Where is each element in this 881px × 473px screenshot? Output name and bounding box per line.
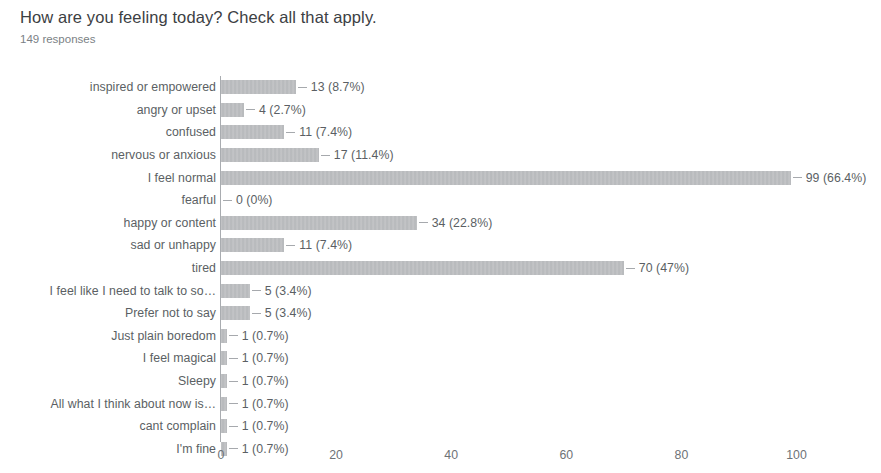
bar[interactable] bbox=[221, 171, 791, 185]
x-axis-tick-label: 80 bbox=[675, 448, 689, 462]
category-label: tired bbox=[192, 261, 216, 275]
category-label: I feel magical bbox=[143, 351, 216, 365]
value-label: 1 (0.7%) bbox=[242, 397, 289, 411]
value-label: 11 (7.4%) bbox=[299, 238, 352, 252]
bar[interactable] bbox=[221, 397, 227, 411]
bar[interactable] bbox=[221, 125, 284, 139]
bar-group[interactable]: 1 (0.7%) bbox=[221, 397, 289, 411]
bar-group[interactable]: 11 (7.4%) bbox=[221, 125, 352, 139]
bar-group[interactable]: 34 (22.8%) bbox=[221, 216, 492, 230]
bar[interactable] bbox=[221, 329, 227, 343]
bar-group[interactable]: 5 (3.4%) bbox=[221, 306, 312, 320]
chart-row: tired70 (47%) bbox=[0, 257, 881, 280]
chart-row: cant complain1 (0.7%) bbox=[0, 415, 881, 438]
bar-group[interactable]: 13 (8.7%) bbox=[221, 80, 365, 94]
chart-row: I feel normal99 (66.4%) bbox=[0, 166, 881, 189]
value-label: 4 (2.7%) bbox=[259, 103, 306, 117]
chart-row: Just plain boredom1 (0.7%) bbox=[0, 325, 881, 348]
label-connector-line bbox=[286, 245, 295, 246]
category-label: Prefer not to say bbox=[125, 306, 216, 320]
label-connector-line bbox=[286, 132, 295, 133]
chart-rows: inspired or empowered13 (8.7%)angry or u… bbox=[0, 76, 881, 460]
bar-group[interactable]: 99 (66.4%) bbox=[221, 171, 866, 185]
bar[interactable] bbox=[221, 374, 227, 388]
bar[interactable] bbox=[221, 80, 296, 94]
bar[interactable] bbox=[221, 284, 250, 298]
bar[interactable] bbox=[221, 261, 624, 275]
value-label: 70 (47%) bbox=[639, 261, 689, 275]
page-title: How are you feeling today? Check all tha… bbox=[20, 8, 377, 27]
x-axis-tick-label: 0 bbox=[218, 448, 225, 462]
value-label: 5 (3.4%) bbox=[265, 284, 312, 298]
value-label: 13 (8.7%) bbox=[311, 80, 365, 94]
bar[interactable] bbox=[221, 216, 417, 230]
bar-group[interactable]: 1 (0.7%) bbox=[221, 351, 289, 365]
category-label: sad or unhappy bbox=[131, 238, 216, 252]
bar[interactable] bbox=[221, 148, 319, 162]
label-connector-line bbox=[321, 155, 330, 156]
category-label: Just plain boredom bbox=[111, 329, 216, 343]
category-label: Sleepy bbox=[178, 374, 216, 388]
x-axis: 020406080100 bbox=[0, 448, 881, 472]
label-connector-line bbox=[252, 313, 261, 314]
chart-row: sad or unhappy11 (7.4%) bbox=[0, 234, 881, 257]
bar-group[interactable]: 5 (3.4%) bbox=[221, 284, 312, 298]
bar[interactable] bbox=[221, 103, 244, 117]
response-count-label: 149 responses bbox=[20, 33, 95, 45]
chart-row: I feel like I need to talk to so…5 (3.4%… bbox=[0, 279, 881, 302]
value-label: 0 (0%) bbox=[236, 193, 273, 207]
value-label: 5 (3.4%) bbox=[265, 306, 312, 320]
bar-group[interactable]: 17 (11.4%) bbox=[221, 148, 394, 162]
label-connector-line bbox=[626, 268, 635, 269]
x-axis-tick-label: 20 bbox=[329, 448, 343, 462]
value-label: 17 (11.4%) bbox=[334, 148, 394, 162]
chart-row: I feel magical1 (0.7%) bbox=[0, 347, 881, 370]
bar-group[interactable]: 70 (47%) bbox=[221, 261, 689, 275]
chart-row: angry or upset4 (2.7%) bbox=[0, 99, 881, 122]
bar-group[interactable]: 11 (7.4%) bbox=[221, 238, 352, 252]
chart-row: happy or content34 (22.8%) bbox=[0, 212, 881, 235]
category-label: inspired or empowered bbox=[90, 80, 216, 94]
chart-row: confused11 (7.4%) bbox=[0, 121, 881, 144]
chart-row: Sleepy1 (0.7%) bbox=[0, 370, 881, 393]
bar[interactable] bbox=[221, 306, 250, 320]
value-label: 99 (66.4%) bbox=[806, 171, 867, 185]
chart-row: Prefer not to say5 (3.4%) bbox=[0, 302, 881, 325]
label-connector-line bbox=[252, 290, 261, 291]
bar-group[interactable]: 4 (2.7%) bbox=[221, 103, 306, 117]
bar[interactable] bbox=[221, 238, 284, 252]
category-label: cant complain bbox=[139, 419, 216, 433]
value-label: 1 (0.7%) bbox=[242, 419, 289, 433]
bar-group[interactable]: 1 (0.7%) bbox=[221, 374, 289, 388]
value-label: 11 (7.4%) bbox=[299, 125, 352, 139]
bar-group[interactable]: 1 (0.7%) bbox=[221, 329, 289, 343]
label-connector-line bbox=[229, 426, 238, 427]
value-label: 1 (0.7%) bbox=[242, 329, 289, 343]
x-axis-tick-label: 100 bbox=[786, 448, 807, 462]
x-axis-tick-label: 60 bbox=[559, 448, 573, 462]
bar-chart: inspired or empowered13 (8.7%)angry or u… bbox=[0, 70, 881, 473]
bar[interactable] bbox=[221, 419, 227, 433]
category-label: All what I think about now is… bbox=[50, 397, 216, 411]
value-label: 1 (0.7%) bbox=[242, 351, 289, 365]
category-label: happy or content bbox=[124, 216, 216, 230]
category-label: confused bbox=[166, 125, 216, 139]
category-label: I feel normal bbox=[148, 171, 216, 185]
label-connector-line bbox=[419, 222, 428, 223]
chart-row: All what I think about now is…1 (0.7%) bbox=[0, 392, 881, 415]
value-label: 1 (0.7%) bbox=[242, 374, 289, 388]
chart-row: fearful0 (0%) bbox=[0, 189, 881, 212]
category-label: nervous or anxious bbox=[111, 148, 216, 162]
bar-group[interactable]: 0 (0%) bbox=[221, 193, 273, 207]
label-connector-line bbox=[229, 403, 238, 404]
label-connector-line bbox=[229, 335, 238, 336]
chart-row: inspired or empowered13 (8.7%) bbox=[0, 76, 881, 99]
value-label: 34 (22.8%) bbox=[432, 216, 493, 230]
chart-row: nervous or anxious17 (11.4%) bbox=[0, 144, 881, 167]
bar-group[interactable]: 1 (0.7%) bbox=[221, 419, 289, 433]
category-label: fearful bbox=[181, 193, 216, 207]
label-connector-line bbox=[223, 200, 232, 201]
label-connector-line bbox=[298, 87, 307, 88]
bar[interactable] bbox=[221, 351, 227, 365]
x-axis-tick-label: 40 bbox=[444, 448, 458, 462]
